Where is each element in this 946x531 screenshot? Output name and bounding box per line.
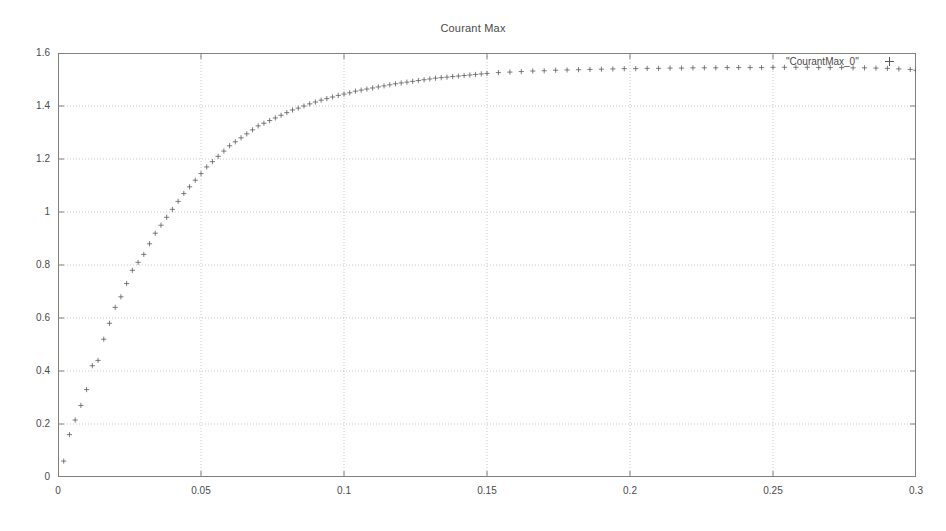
- legend-plus-marker-icon: [885, 57, 894, 66]
- plot-area: [58, 53, 916, 477]
- x-tick-label: 0.3: [886, 485, 946, 496]
- legend: "CourantMax_0": [786, 56, 894, 67]
- y-tick-label: 0.8: [6, 259, 50, 270]
- x-tick-label: 0.25: [743, 485, 803, 496]
- y-tick-label: 1.4: [6, 100, 50, 111]
- x-tick-label: 0: [28, 485, 88, 496]
- chart-title: Courant Max: [0, 22, 946, 34]
- y-tick-label: 0.2: [6, 418, 50, 429]
- chart-page: Courant Max 00.20.40.60.811.21.41.6 00.0…: [0, 0, 946, 531]
- y-tick-label: 1.6: [6, 47, 50, 58]
- y-tick-label: 0: [6, 471, 50, 482]
- y-tick-label: 0.4: [6, 365, 50, 376]
- x-tick-label: 0.05: [171, 485, 231, 496]
- x-tick-label: 0.2: [600, 485, 660, 496]
- x-tick-label: 0.15: [457, 485, 517, 496]
- y-tick-label: 0.6: [6, 312, 50, 323]
- legend-entry-label: "CourantMax_0": [786, 56, 859, 67]
- y-tick-label: 1.2: [6, 153, 50, 164]
- x-tick-label: 0.1: [314, 485, 374, 496]
- plot-canvas: [58, 53, 916, 477]
- y-tick-label: 1: [6, 206, 50, 217]
